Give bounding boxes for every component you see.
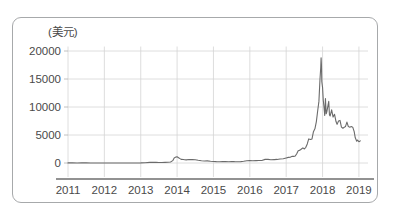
vertical-gridlines bbox=[68, 47, 359, 177]
xtick-label: 2017 bbox=[273, 184, 299, 196]
y-axis-unit-label: (美元) bbox=[48, 25, 78, 38]
x-axis-tick-labels: 201120122013201420152016201720182019 bbox=[56, 184, 372, 196]
xtick-label: 2015 bbox=[201, 184, 227, 196]
xtick-label: 2019 bbox=[346, 184, 372, 196]
ytick-label: 5000 bbox=[35, 129, 61, 141]
xtick-label: 2014 bbox=[164, 184, 190, 196]
chart-figure-container: (美元) 05000100001500020000 20112012201320… bbox=[12, 17, 378, 203]
price-series-line bbox=[68, 58, 360, 163]
ytick-label: 10000 bbox=[29, 101, 61, 113]
xtick-label: 2011 bbox=[56, 184, 81, 196]
y-axis-tick-labels: 05000100001500020000 bbox=[29, 45, 61, 169]
ytick-label: 0 bbox=[55, 157, 61, 169]
xtick-label: 2012 bbox=[92, 184, 118, 196]
ytick-label: 20000 bbox=[29, 45, 61, 57]
xtick-label: 2016 bbox=[237, 184, 263, 196]
bitcoin-price-line-chart: (美元) 05000100001500020000 20112012201320… bbox=[13, 18, 379, 204]
xtick-label: 2018 bbox=[310, 184, 336, 196]
horizontal-gridlines bbox=[68, 51, 368, 163]
y-axis-tick-marks bbox=[64, 51, 68, 163]
xtick-label: 2013 bbox=[128, 184, 154, 196]
ytick-label: 15000 bbox=[29, 73, 61, 85]
